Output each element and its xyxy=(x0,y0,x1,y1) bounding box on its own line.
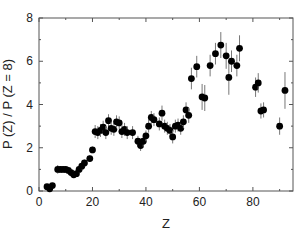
marker-circle xyxy=(282,87,289,94)
marker-circle xyxy=(143,132,150,139)
data-point xyxy=(276,117,283,134)
data-point xyxy=(188,68,195,90)
marker-circle xyxy=(260,107,267,114)
x-tick-label: 80 xyxy=(246,195,260,209)
marker-circle xyxy=(81,159,88,166)
data-point xyxy=(86,155,93,162)
data-point xyxy=(193,56,200,78)
scatter-chart: 02040608002468 Z P (Z) / P (Z = 8) xyxy=(0,0,304,235)
marker-circle xyxy=(217,42,224,49)
marker-circle xyxy=(193,63,200,70)
x-tick-label: 40 xyxy=(139,195,153,209)
marker-circle xyxy=(49,182,56,189)
y-tick-label: 2 xyxy=(26,141,33,155)
marker-circle xyxy=(185,112,192,119)
x-tick-label: 0 xyxy=(36,195,43,209)
y-tick-label: 4 xyxy=(26,98,33,112)
marker-circle xyxy=(151,116,158,123)
marker-circle xyxy=(255,79,262,86)
marker-circle xyxy=(223,52,230,59)
data-point xyxy=(282,72,289,109)
marker-circle xyxy=(201,95,208,102)
x-tick-label: 60 xyxy=(193,195,207,209)
data-point xyxy=(207,55,214,77)
marker-circle xyxy=(228,58,235,65)
data-point xyxy=(89,147,96,154)
y-tick-label: 6 xyxy=(26,54,33,68)
marker-circle xyxy=(276,123,283,130)
marker-circle xyxy=(102,129,109,136)
marker-circle xyxy=(225,74,232,81)
data-point xyxy=(129,126,136,139)
x-axis-title: Z xyxy=(162,216,170,231)
marker-circle xyxy=(169,134,176,141)
data-points xyxy=(44,32,289,192)
axes: 02040608002468 xyxy=(26,11,293,209)
marker-circle xyxy=(236,45,243,52)
y-tick-label: 0 xyxy=(26,184,33,198)
marker-circle xyxy=(207,62,214,69)
marker-circle xyxy=(180,118,187,125)
marker-circle xyxy=(129,129,136,136)
data-point xyxy=(49,182,56,189)
y-tick-label: 8 xyxy=(26,11,33,25)
marker-circle xyxy=(212,50,219,57)
marker-circle xyxy=(89,147,96,154)
marker-circle xyxy=(159,110,166,117)
plot-frame xyxy=(39,18,293,191)
marker-circle xyxy=(188,75,195,82)
marker-circle xyxy=(86,155,93,162)
marker-circle xyxy=(233,62,240,69)
x-tick-label: 20 xyxy=(86,195,100,209)
y-axis-title: P (Z) / P (Z = 8) xyxy=(0,59,15,149)
data-point xyxy=(81,159,88,166)
